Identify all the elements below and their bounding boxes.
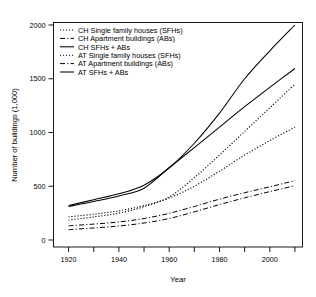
y-tick-label: 1500 — [30, 74, 46, 83]
y-tick-label: 1000 — [30, 128, 46, 137]
y-tick-label: 500 — [34, 182, 46, 191]
x-tick-label: 1920 — [61, 255, 77, 264]
x-axis-title: Year — [170, 275, 186, 284]
chart-figure: 0500100015002000 19201940196019802000 Ye… — [0, 0, 316, 297]
x-tick-label: 1960 — [161, 255, 177, 264]
x-tick-label: 1940 — [111, 255, 127, 264]
chart-background — [0, 0, 316, 297]
x-tick-label: 1980 — [212, 255, 228, 264]
legend-label-5: AT SFHs + ABs — [78, 68, 129, 77]
x-tick-label: 2000 — [262, 255, 278, 264]
y-tick-label: 0 — [42, 236, 46, 245]
y-tick-label: 2000 — [30, 21, 46, 30]
y-axis-title: Number of buildings (1,000) — [10, 88, 19, 182]
line-chart: 0500100015002000 19201940196019802000 Ye… — [0, 0, 316, 297]
